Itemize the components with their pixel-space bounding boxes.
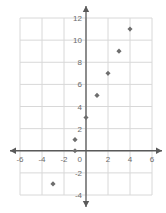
y-tick-label: -2 bbox=[75, 169, 83, 178]
y-tick-label: 4 bbox=[78, 103, 83, 112]
y-tick-label: 6 bbox=[78, 80, 83, 89]
x-tick-label: -2 bbox=[60, 155, 68, 164]
y-tick-label: 12 bbox=[73, 14, 82, 23]
x-tick-label: -4 bbox=[38, 155, 46, 164]
x-tick-label: -6 bbox=[16, 155, 24, 164]
y-tick-label: -4 bbox=[75, 191, 83, 200]
scatter-plot: -6-4-224612108642-2-40 bbox=[0, 0, 166, 213]
y-tick-label: 8 bbox=[78, 58, 83, 67]
x-tick-label: 4 bbox=[128, 155, 133, 164]
y-tick-label: 10 bbox=[73, 36, 82, 45]
x-tick-label: 2 bbox=[106, 155, 111, 164]
origin-label: 0 bbox=[78, 155, 83, 164]
y-tick-label: 2 bbox=[78, 125, 83, 134]
x-tick-label: 6 bbox=[150, 155, 155, 164]
coordinate-grid-chart: -6-4-224612108642-2-40 bbox=[0, 0, 166, 213]
